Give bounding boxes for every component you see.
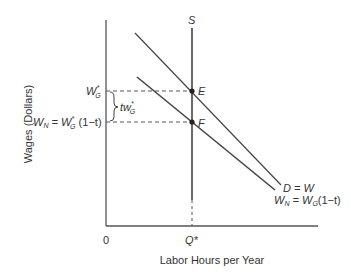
- y-axis-title: Wages (Dollars): [22, 85, 34, 163]
- point-f-marker: [189, 119, 194, 124]
- demand-curve-net: [137, 77, 275, 190]
- x-axis-title: Labor Hours per Year: [160, 254, 265, 266]
- demand-curve-gross: [135, 33, 281, 185]
- point-f-label: F: [198, 117, 206, 129]
- supply-label: S: [188, 14, 196, 26]
- point-e-label: E: [198, 85, 206, 97]
- demand-net-label: WN = WG(1−t): [274, 194, 341, 207]
- tax-wedge-brace-icon: [110, 92, 118, 121]
- point-e-marker: [189, 88, 194, 93]
- origin-label: 0: [103, 234, 109, 246]
- gross-wage-tick-label: W*G: [86, 84, 101, 99]
- q-star-label: Q*: [185, 234, 199, 246]
- net-wage-tick-label: WN = W*G (1−t): [33, 115, 102, 130]
- tax-wedge-label: tw*G: [120, 100, 136, 115]
- demand-gross-label: D = W: [283, 182, 315, 194]
- labor-market-diagram: E F S D = W WN = WG(1−t) W*G WN = W*G (1…: [0, 0, 351, 275]
